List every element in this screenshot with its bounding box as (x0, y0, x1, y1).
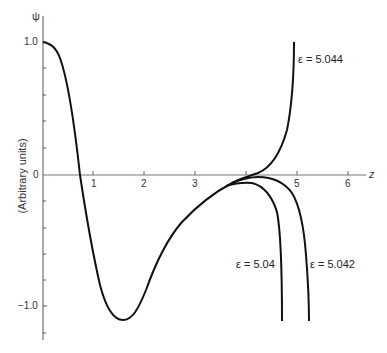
y-tick-label-1: 1.0 (24, 36, 38, 47)
curve-eps-504 (226, 183, 282, 321)
annotation-eps-5042: ε = 5.042 (310, 258, 355, 270)
y-tick-label-minus1: −1.0 (18, 300, 38, 311)
y-axis-units-label: (Arbitrary units) (16, 126, 28, 226)
annotation-eps-5044: ε = 5.044 (298, 53, 343, 65)
x-tick-label-2: 2 (141, 178, 147, 189)
x-tick-label-3: 3 (192, 178, 198, 189)
y-axis-symbol: ψ (32, 10, 40, 22)
x-ticks (93, 171, 348, 175)
x-axis-label: z (369, 168, 375, 180)
y-tick-label-0: 0 (33, 169, 39, 180)
y-ticks (43, 42, 47, 333)
x-tick-label-5: 5 (294, 178, 300, 189)
x-tick-label-6: 6 (345, 178, 351, 189)
curve-eps-5044 (43, 42, 294, 320)
annotation-eps-504: ε = 5.04 (236, 258, 275, 270)
x-tick-label-1: 1 (91, 178, 97, 189)
